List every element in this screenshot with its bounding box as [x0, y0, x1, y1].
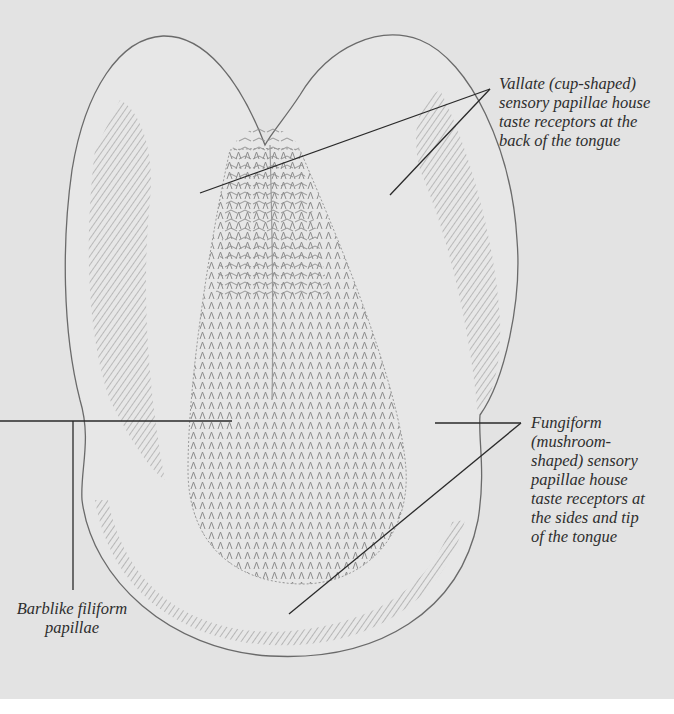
filiform-papillae-label: Barblike filiform papillae: [0, 599, 144, 637]
illustration-canvas: Vallate (cup-shaped) sensory papillae ho…: [0, 0, 674, 699]
label-line: Vallate (cup-shaped): [499, 74, 650, 93]
label-line: of the tongue: [531, 527, 645, 546]
vallate-papillae-label: Vallate (cup-shaped) sensory papillae ho…: [499, 74, 650, 150]
label-line: sensory papillae house: [499, 93, 650, 112]
label-line: papillae house: [531, 470, 645, 489]
label-line: shaped) sensory: [531, 451, 645, 470]
label-line: papillae: [0, 618, 144, 637]
label-line: (mushroom-: [531, 432, 645, 451]
label-line: the sides and tip: [531, 508, 645, 527]
label-line: taste receptors at the: [499, 112, 650, 131]
label-line: Fungiform: [531, 413, 645, 432]
label-line: back of the tongue: [499, 131, 650, 150]
fungiform-papillae-label: Fungiform (mushroom- shaped) sensory pap…: [531, 413, 645, 546]
label-line: Barblike filiform: [0, 599, 144, 618]
label-line: taste receptors at: [531, 489, 645, 508]
